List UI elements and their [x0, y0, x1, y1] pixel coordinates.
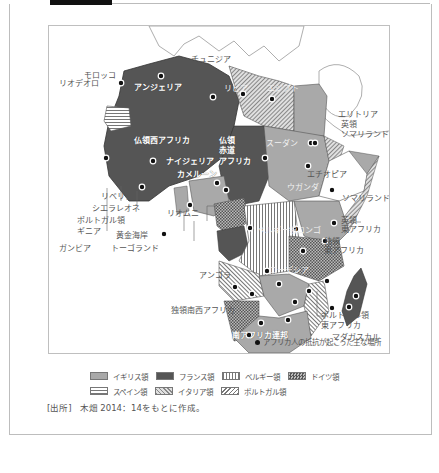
label-tunisia: チュニジア [191, 55, 231, 64]
legend-item-italian: イタリア領 [155, 386, 213, 397]
label-egypt: エジプト [267, 84, 299, 93]
label-somaliland: ソマリランド [342, 194, 390, 203]
legend-item-spanish: スペイン領 [90, 386, 147, 397]
label-german-east-africa-2: 東アフリカ [324, 246, 364, 255]
legend-label: フランス領 [179, 371, 214, 382]
label-belgian-congo: ベルギー領コンゴ [257, 226, 321, 235]
label-libya: リビア [224, 84, 248, 93]
label-german-east-africa-1: 独領 [324, 237, 340, 246]
legend-item-belgian: ベルギー領 [222, 371, 280, 382]
resistance-legend-label: アフリカ人の抵抗が起こった主な場所 [263, 338, 381, 347]
map-legend: イギリス領 フランス領 ベルギー領 ドイツ領 スペイン領 イタリア領 ポルトガル… [90, 370, 420, 400]
label-british-east-africa-2: 東アフリカ [341, 225, 381, 234]
label-british-somaliland-2: ソマリランド [341, 130, 389, 139]
label-gold-coast: 黄金海岸 [116, 231, 148, 240]
africa-colonial-map: チュニジア モロッコ リオデオロ アンジェリア リビア エジプト エリトリア 英… [48, 25, 390, 354]
legend-label: ポルトガル領 [244, 386, 286, 397]
label-togoland: トーゴランド [111, 244, 159, 253]
legend-item-german: ドイツ領 [288, 371, 339, 382]
label-ethiopia: エチオピア [307, 170, 347, 179]
label-algeria: アンジェリア [134, 83, 182, 92]
legend-item-portuguese: ポルトガル領 [221, 386, 286, 397]
german-swatch-icon [288, 372, 306, 380]
legend-label: イタリア領 [178, 386, 213, 397]
british-swatch-icon [90, 372, 108, 380]
label-french-west-africa: 仏領西アフリカ [134, 136, 190, 145]
label-rio-de-oro: リオデオロ [59, 79, 99, 88]
legend-row-1: イギリス領 フランス領 ベルギー領 ドイツ領 [90, 370, 420, 382]
label-german-sw-africa: 独領南西アフリカ [171, 306, 235, 315]
label-portuguese-guinea-1: ポルトガル領 [77, 216, 125, 225]
label-eritrea: エリトリア [338, 110, 378, 119]
label-nigeria: ナイジェリア [166, 157, 214, 166]
label-french-equatorial-1: 仏領 [219, 136, 235, 145]
italian-swatch-icon [155, 387, 173, 395]
label-sudan: スーダン [266, 139, 298, 148]
label-french-equatorial-2: 赤道 [219, 146, 235, 155]
source-note: [出所]木畑 2014：14をもとに作成。 [47, 401, 205, 413]
label-portuguese-ea-2: 東アフリカ [321, 321, 361, 330]
spanish-swatch-icon [90, 387, 108, 395]
french-swatch-icon [156, 372, 174, 380]
source-tag: [出所] [47, 403, 72, 413]
resistance-legend: アフリカ人の抵抗が起こった主な場所 [255, 336, 381, 347]
resistance-dot-icon [255, 340, 260, 345]
legend-item-french: フランス領 [156, 371, 214, 382]
legend-label: スペイン領 [113, 386, 147, 397]
source-text: 木畑 2014：14をもとに作成。 [80, 403, 205, 413]
label-portuguese-guinea-2: ギニア [77, 227, 101, 236]
label-angola: アンゴラ [199, 271, 231, 280]
legend-item-british: イギリス領 [90, 371, 148, 382]
portuguese-swatch-icon [221, 387, 239, 395]
label-portuguese-ea-1: ポルトガル領 [321, 311, 369, 320]
label-british-somaliland-1: 英領 [341, 120, 357, 129]
legend-row-2: スペイン領 イタリア領 ポルトガル領 [90, 385, 420, 397]
belgian-swatch-icon [222, 372, 240, 380]
label-sierra-leone: シエラレオネ [92, 204, 140, 213]
label-french-equatorial-3: アフリカ [219, 157, 251, 166]
legend-label: ベルギー領 [245, 371, 280, 382]
legend-label: ドイツ領 [311, 371, 339, 382]
label-rhodesia: ローデシア [269, 266, 309, 275]
label-cameroon: カメルーン [177, 170, 217, 179]
label-rio-muni: リオムニ [167, 209, 199, 218]
label-british-east-africa-1: 英領 [341, 216, 357, 225]
label-liberia: リベリア [101, 192, 133, 201]
label-uganda: ウガンダ [287, 183, 319, 192]
legend-label: イギリス領 [113, 371, 148, 382]
label-gambia: ガンビア [59, 244, 91, 253]
